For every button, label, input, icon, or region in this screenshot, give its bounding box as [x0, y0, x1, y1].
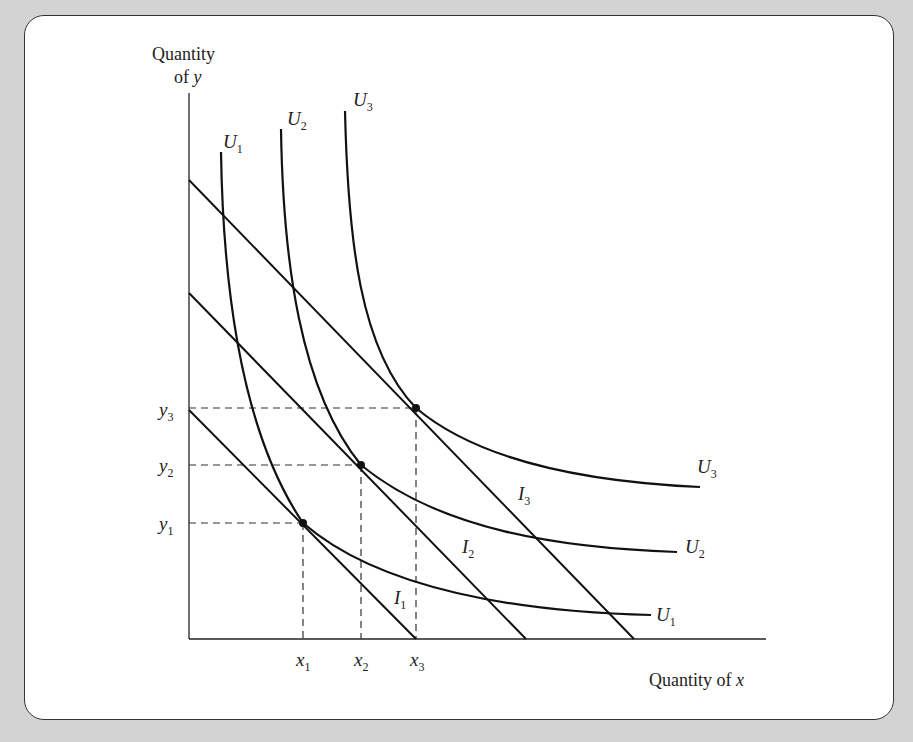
equilibrium-point-2: [357, 461, 365, 469]
equilibrium-point-1: [299, 519, 307, 527]
y1-tick-label: y1: [157, 513, 173, 538]
equilibrium-point-3: [412, 404, 420, 412]
y3-tick-label: y3: [157, 399, 173, 424]
u1-right-label: U1: [656, 604, 676, 629]
u2-right-label: U2: [685, 536, 705, 561]
x3-tick-label: x3: [409, 649, 424, 674]
u2-top-label: U2: [287, 108, 307, 133]
x2-tick-label: x2: [353, 649, 368, 674]
u1-top-label: U1: [223, 131, 243, 156]
x1-tick-label: x1: [295, 649, 310, 674]
indifference-curve-u2: [281, 129, 677, 552]
y2-tick-label: y2: [157, 455, 173, 480]
budget-line-i3: [189, 180, 634, 639]
i3-label: I3: [517, 483, 530, 508]
y-axis-title-line2: of y: [174, 67, 202, 87]
u3-right-label: U3: [697, 456, 717, 481]
i2-label: I2: [461, 536, 474, 561]
y-axis-title-line1: Quantity: [152, 44, 215, 64]
indifference-curve-u3: [345, 111, 700, 487]
u3-top-label: U3: [353, 89, 373, 114]
x-axis-title: Quantity of x: [649, 670, 744, 690]
i1-label: I1: [393, 587, 406, 612]
income-consumption-diagram: Quantity of y Quantity of x U1 U2 U3 U3 …: [0, 0, 913, 742]
